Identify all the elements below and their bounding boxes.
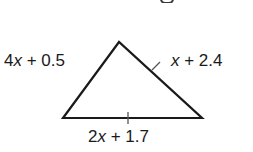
- label-rest: + 2.4: [180, 51, 223, 70]
- congruence-tick-right: [152, 62, 160, 70]
- side-label-bottom: 2x + 1.7: [88, 128, 149, 145]
- label-var: x: [171, 51, 180, 70]
- side-label-right: x + 2.4: [171, 52, 223, 69]
- side-label-left: 4x + 0.5: [4, 52, 65, 69]
- label-var: x: [97, 127, 106, 146]
- label-var: x: [13, 51, 22, 70]
- label-rest: + 1.7: [106, 127, 149, 146]
- label-rest: + 0.5: [22, 51, 65, 70]
